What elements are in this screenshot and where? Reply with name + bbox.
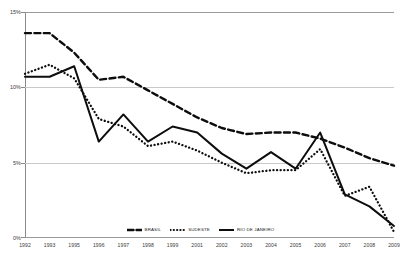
x-axis-tick-label: 2006 — [307, 242, 333, 249]
series-plot — [25, 12, 394, 238]
x-axis-tick-label: 2008 — [356, 242, 382, 249]
y-axis-tick-label: 15% — [0, 9, 21, 15]
legend-item: BRASIL — [127, 227, 162, 233]
x-axis-tick-label: 1992 — [12, 242, 38, 249]
x-axis-tick-label: 1997 — [110, 242, 136, 249]
legend-label: BRASIL — [145, 227, 162, 233]
legend-swatch-solid-icon — [219, 227, 234, 233]
legend-item: SUDESTE — [170, 227, 210, 233]
y-axis-tick-label: 10% — [0, 84, 21, 90]
x-axis-tick-label: 2007 — [332, 242, 358, 249]
x-axis-tick-label: 1998 — [135, 242, 161, 249]
x-axis-tick-label: 1995 — [61, 242, 87, 249]
series-line-brasil — [25, 33, 394, 166]
x-axis-label-group: 1992199319951996199719981999200120022003… — [25, 242, 394, 252]
x-axis-tick-label: 2004 — [258, 242, 284, 249]
x-axis-tick-label: 2005 — [283, 242, 309, 249]
x-axis-tick-label: 2001 — [184, 242, 210, 249]
x-axis-tick-label: 2009 — [381, 242, 401, 249]
y-axis-tick-label: 5% — [0, 160, 21, 166]
x-axis-tick-label: 2002 — [209, 242, 235, 249]
chart-container: 15%10%5%0% 19921993199519961997199819992… — [0, 0, 401, 258]
x-axis-tick-label: 1993 — [37, 242, 63, 249]
x-axis-tick-label: 1999 — [160, 242, 186, 249]
plot-area — [25, 12, 394, 238]
chart-legend: BRASILSUDESTERIO DE JANEIRO — [0, 224, 401, 236]
legend-item: RIO DE JANEIRO — [219, 227, 274, 233]
x-axis-tick-label: 1996 — [86, 242, 112, 249]
series-line-sudeste — [25, 65, 394, 232]
legend-swatch-dashed-icon — [127, 227, 142, 233]
x-axis-tick-label: 2003 — [233, 242, 259, 249]
legend-label: SUDESTE — [188, 227, 210, 233]
legend-label: RIO DE JANEIRO — [237, 227, 274, 233]
legend-swatch-dotted-icon — [170, 227, 185, 233]
